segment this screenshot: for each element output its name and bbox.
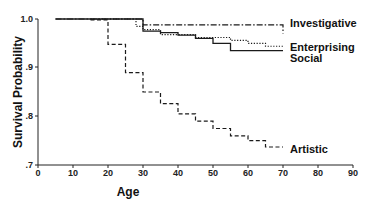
x-tick-label: 80	[313, 168, 323, 178]
x-tick-label: 60	[243, 168, 253, 178]
x-tick-label: 40	[173, 168, 183, 178]
series-label-artistic: Artistic	[290, 143, 328, 155]
y-tick-label: .7	[25, 160, 33, 170]
series-label-investigative: Investigative	[290, 17, 357, 29]
y-tick-label: .9	[25, 62, 33, 72]
x-tick-label: 20	[103, 168, 113, 178]
series-enterprising-line	[91, 19, 284, 46]
y-axis-title: Survival Probability	[11, 36, 25, 148]
y-tick-label: 1.0	[20, 14, 33, 24]
series-label-social: Social	[290, 52, 322, 64]
series-social-line	[56, 19, 284, 51]
x-axis-title: Age	[117, 185, 140, 199]
x-tick-label: 50	[208, 168, 218, 178]
x-tick-label: 0	[35, 168, 40, 178]
survival-chart: 1.0 .9 .8 .7 0 10 20 30 40 50 60 70 80 9…	[0, 0, 373, 211]
x-tick-label: 30	[138, 168, 148, 178]
series-investigative-line	[56, 19, 284, 34]
x-tick-label: 10	[68, 168, 78, 178]
series-layer	[56, 19, 284, 147]
series-artistic-line	[91, 20, 284, 147]
x-tick-label: 70	[278, 168, 288, 178]
x-tick-label: 90	[348, 168, 358, 178]
y-tick-label: .8	[25, 111, 33, 121]
